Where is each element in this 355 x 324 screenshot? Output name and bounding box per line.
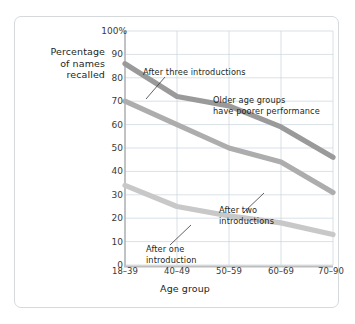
x-tick-18-39: 18–39 [105, 266, 145, 276]
chart-card: Percentage of names recalled 0 10 20 30 … [14, 16, 339, 308]
x-tick-40-49: 40–49 [157, 266, 197, 276]
annotation-after-one-introduction: After one introduction [146, 244, 197, 265]
y-tick-40: 40 [89, 166, 123, 176]
x-tick-50-59: 50–59 [209, 266, 249, 276]
x-axis-title: Age group [125, 283, 245, 295]
annotation-older-age-groups: Older age groups have poorer performance [213, 95, 320, 116]
y-tick-20: 20 [89, 213, 123, 223]
y-tick-30: 30 [89, 190, 123, 200]
x-tick-70-90: 70–90 [311, 266, 351, 276]
y-tick-60: 60 [89, 120, 123, 130]
y-tick-70: 70 [89, 96, 123, 106]
y-tick-50: 50 [89, 143, 123, 153]
y-tick-10: 10 [89, 237, 123, 247]
y-tick-90: 90 [89, 49, 123, 59]
y-tick-80: 80 [89, 73, 123, 83]
y-tick-100: 100% [87, 26, 127, 36]
annotation-after-two-introductions: After two introductions [219, 205, 274, 226]
x-tick-60-69: 60–69 [261, 266, 301, 276]
annotation-after-three-introductions: After three introductions [143, 67, 246, 78]
